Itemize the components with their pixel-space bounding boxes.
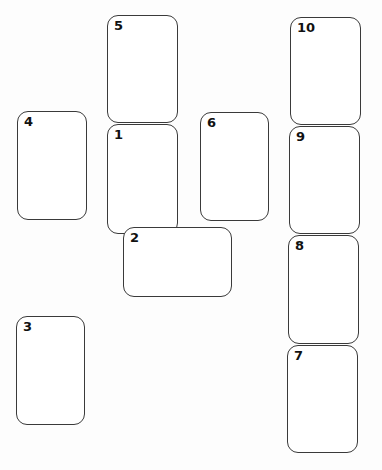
card-number-label: 1 [114,127,123,142]
card-number-label: 10 [297,20,315,35]
card-position-7: 7 [287,345,358,453]
card-number-label: 9 [296,129,305,144]
card-position-2: 2 [123,227,232,297]
card-spread-diagram: 1 2 3 4 5 6 7 8 9 10 [0,0,382,470]
card-number-label: 5 [114,18,123,33]
card-position-1: 1 [107,124,178,234]
card-number-label: 6 [207,115,216,130]
card-number-label: 8 [295,238,304,253]
card-position-4: 4 [17,111,87,220]
card-number-label: 4 [24,114,33,129]
card-number-label: 7 [294,348,303,363]
card-position-10: 10 [290,17,361,125]
card-position-5: 5 [107,15,178,123]
card-position-3: 3 [16,316,85,425]
card-number-label: 3 [23,319,32,334]
card-position-8: 8 [288,235,359,344]
card-position-9: 9 [289,126,360,234]
card-position-6: 6 [200,112,269,221]
card-number-label: 2 [130,230,139,245]
